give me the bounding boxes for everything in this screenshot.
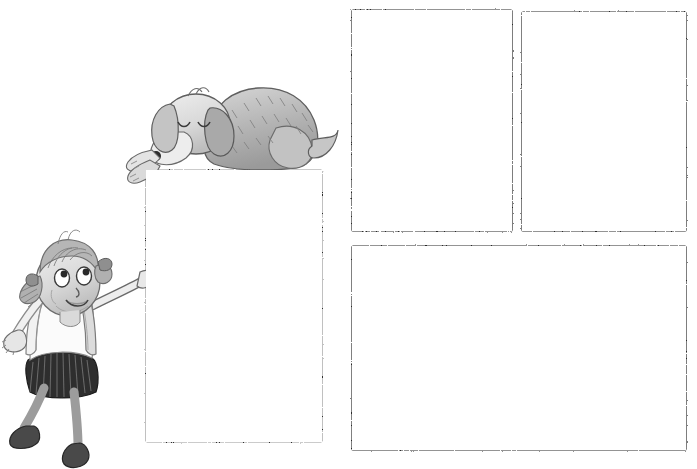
girl-shoe-left bbox=[10, 426, 40, 449]
spiky-virus-panel: Spherical enveloped virus with surface s… bbox=[352, 10, 512, 231]
girl-shoe-right bbox=[62, 443, 88, 467]
girl-hair-bow-right bbox=[98, 258, 112, 270]
girl-hair-bow-left bbox=[26, 274, 38, 286]
disc-virus-panel: Smooth disc or short-cylinder shaped vir… bbox=[522, 12, 686, 231]
girl-leg-right bbox=[74, 392, 78, 446]
dog-ear-left bbox=[152, 104, 179, 152]
girl-open-hand bbox=[2, 330, 27, 355]
bacteriophage-panel: Bacteriophage with icosahedral head, hel… bbox=[146, 170, 322, 442]
illustration-canvas: Hand-drawn pencil illustration of virus … bbox=[0, 0, 697, 469]
filamentous-panel: Four phages with icosahedral heads and l… bbox=[352, 246, 686, 450]
sleeping-dog bbox=[126, 88, 338, 183]
girl-neck bbox=[60, 310, 80, 327]
cartoon-girl bbox=[2, 230, 152, 467]
